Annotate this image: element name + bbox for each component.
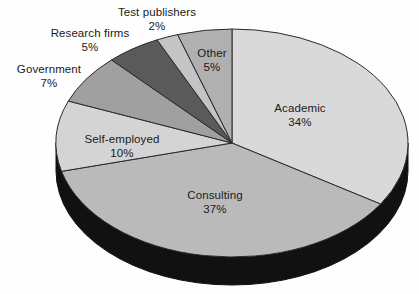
pie-chart-canvas <box>0 0 419 294</box>
pie-slices <box>56 29 408 257</box>
pie-chart: Academic 34% Consulting 37% Self-employe… <box>0 0 419 294</box>
